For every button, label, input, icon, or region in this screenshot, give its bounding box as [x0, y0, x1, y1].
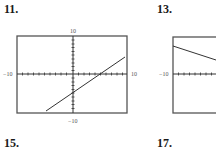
- graphs-canvas: [0, 0, 216, 152]
- graph-13: [173, 37, 216, 113]
- graph-13-plot-line: [173, 46, 216, 60]
- graph-11-plot-line: [46, 57, 125, 111]
- graph-11: [17, 36, 127, 113]
